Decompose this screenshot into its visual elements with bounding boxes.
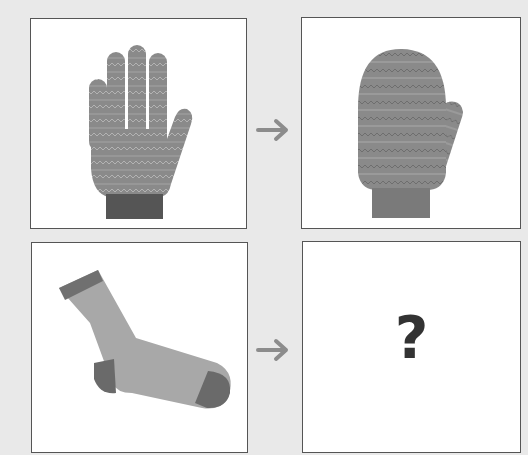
- arrow-right-icon: [256, 118, 292, 142]
- question-mark: ?: [303, 304, 520, 372]
- arrow-right-icon: [256, 338, 292, 362]
- panel-mitten: [301, 17, 521, 229]
- mitten-icon: [302, 18, 519, 227]
- panel-answer[interactable]: ?: [302, 241, 521, 453]
- panel-sock: [31, 242, 248, 453]
- sock-icon: [32, 243, 246, 451]
- panel-glove: [30, 18, 247, 229]
- glove-icon: [31, 19, 245, 227]
